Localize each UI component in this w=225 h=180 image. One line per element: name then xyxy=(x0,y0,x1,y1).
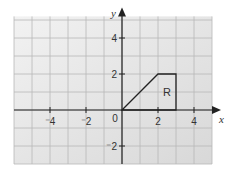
y-tick-label: 4 xyxy=(111,33,117,44)
y-axis-arrow-icon xyxy=(118,7,126,16)
x-tick-label: ⁻2 xyxy=(81,116,92,127)
shape-label: R xyxy=(163,86,171,98)
y-tick-label: 2 xyxy=(111,69,117,80)
x-tick-label: 4 xyxy=(191,116,197,127)
coordinate-grid-diagram: xy⁻4⁻22442⁻20R xyxy=(0,0,225,180)
x-axis-label: x xyxy=(218,113,224,125)
y-tick-label: ⁻2 xyxy=(106,141,117,152)
x-tick-label: ⁻4 xyxy=(45,116,56,127)
y-axis-label: y xyxy=(110,7,116,19)
x-tick-label: 2 xyxy=(155,116,161,127)
origin-label: 0 xyxy=(112,113,118,124)
